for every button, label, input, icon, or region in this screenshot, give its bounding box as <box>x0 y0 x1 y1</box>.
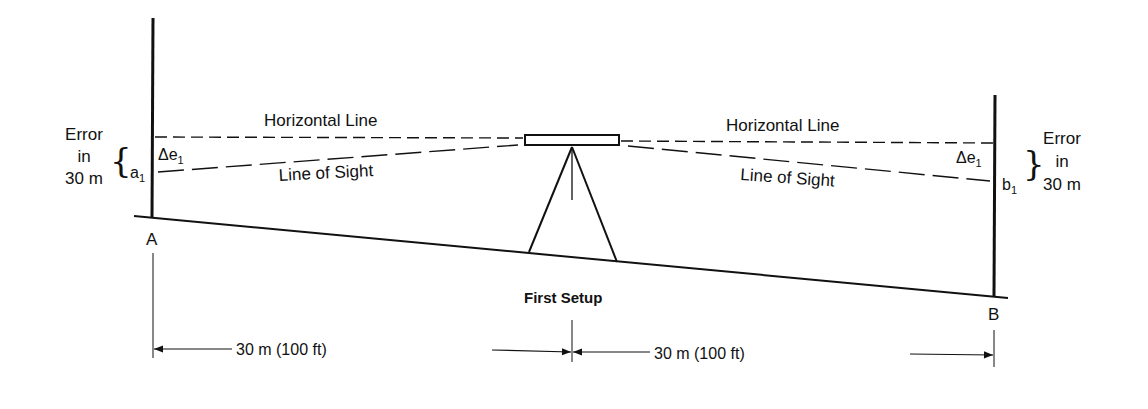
point-a-label: A <box>146 230 158 249</box>
point-b-label: B <box>988 305 999 324</box>
error-annotation-left: Error in 30 m { <box>65 125 132 188</box>
horizontal-line-right <box>621 141 993 143</box>
error-right-line3: 30 m <box>1043 175 1081 194</box>
reading-b1: b1 <box>1002 176 1017 196</box>
rod-b <box>994 95 995 296</box>
first-setup-label: First Setup <box>524 289 602 306</box>
error-right-line1: Error <box>1043 129 1081 148</box>
distance-label-left: 30 m (100 ft) <box>236 341 327 358</box>
distance-label-right: 30 m (100 ft) <box>654 345 745 362</box>
horizontal-line-label-left: Horizontal Line <box>264 111 377 130</box>
line-of-sight-label-right: Line of Sight <box>740 165 836 191</box>
ground-line <box>134 216 1008 298</box>
brace-left-icon: { <box>110 140 132 180</box>
tripod <box>529 147 617 262</box>
error-right-line2: in <box>1055 152 1068 171</box>
horizontal-line-left <box>155 137 523 138</box>
error-left-line3: 30 m <box>65 169 103 188</box>
reading-a1: a1 <box>130 164 145 184</box>
delta-e-right: Δe1 <box>956 149 982 169</box>
dimension-arrow-right-b <box>910 354 993 355</box>
line-of-sight-label-left: Line of Sight <box>278 161 374 185</box>
brace-right-icon: } <box>1023 143 1045 183</box>
dimension-arrow-left-b <box>492 350 571 352</box>
error-annotation-right: Error in 30 m } <box>1023 129 1081 194</box>
level-peg-test-diagram: Horizontal Line Horizontal Line Line of … <box>0 0 1148 409</box>
error-left-line2: in <box>77 147 90 166</box>
error-left-line1: Error <box>65 125 103 144</box>
rod-a <box>152 18 153 217</box>
level-instrument <box>525 135 619 145</box>
horizontal-line-label-right: Horizontal Line <box>726 116 839 135</box>
delta-e-left: Δe1 <box>158 146 184 166</box>
